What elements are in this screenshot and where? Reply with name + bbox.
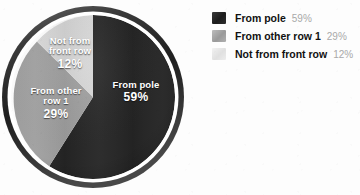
legend-label-from-pole: From pole <box>235 12 286 24</box>
pie-label-not-from-front-row: Not from front row 12% <box>34 36 106 70</box>
legend-label-from-other-row-1: From other row 1 <box>235 30 321 42</box>
legend-percent-not-from-front-row: 12% <box>333 49 353 60</box>
legend-swatch-from-pole <box>212 12 226 24</box>
legend-swatch-not-from-front-row <box>212 48 226 60</box>
pie-label-from-pole: From pole 59% <box>104 80 168 104</box>
legend-item-not-from-front-row[interactable]: Not from front row 12% <box>212 45 353 63</box>
chart-legend: From pole 59% From other row 1 29% Not f… <box>212 9 353 63</box>
legend-swatch-from-other-row-1 <box>212 30 226 42</box>
pie-chart: From pole 59% From other row 1 29% Not f… <box>0 0 190 195</box>
pie-chart-screenshot: From pole 59% From other row 1 29% Not f… <box>0 0 360 195</box>
pie-label-not-from-front-row-percent: 12% <box>34 58 106 71</box>
legend-item-from-pole[interactable]: From pole 59% <box>212 9 353 27</box>
legend-percent-from-pole: 59% <box>292 13 312 24</box>
pie-label-not-from-front-row-line2: front row <box>34 46 106 56</box>
pie-label-from-other-row-1-line2: row 1 <box>18 96 94 106</box>
pie-label-from-other-row-1: From other row 1 29% <box>18 86 94 120</box>
legend-item-from-other-row-1[interactable]: From other row 1 29% <box>212 27 353 45</box>
legend-percent-from-other-row-1: 29% <box>327 31 347 42</box>
pie-label-from-pole-text: From pole <box>104 80 168 90</box>
legend-label-not-from-front-row: Not from front row <box>235 48 327 60</box>
pie-label-from-other-row-1-percent: 29% <box>18 108 94 121</box>
pie-label-from-pole-percent: 59% <box>104 91 168 104</box>
